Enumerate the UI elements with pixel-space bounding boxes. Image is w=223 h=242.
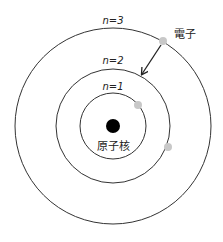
bohr-model-diagram: n=3 n=2 n=1 原子核 電子 (0, 0, 223, 242)
electron-n2 (164, 143, 172, 151)
orbit-label-n2: n=2 (102, 55, 123, 66)
electron-label: 電子 (174, 28, 196, 41)
orbit-label-n3: n=3 (102, 15, 123, 26)
nucleus-icon (106, 119, 120, 133)
electron-n1 (134, 101, 142, 109)
nucleus-label: 原子核 (97, 139, 130, 153)
electron-n3 (159, 37, 167, 45)
transition-arrow-icon (142, 45, 161, 74)
orbit-label-n1: n=1 (102, 81, 123, 92)
